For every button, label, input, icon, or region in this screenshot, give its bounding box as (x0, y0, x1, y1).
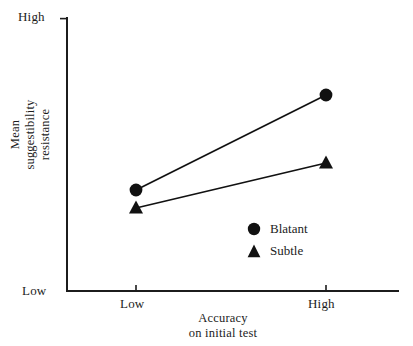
y-axis-low-label: Low (22, 283, 46, 299)
x-axis-title: Accuracy on initial test (163, 311, 283, 341)
data-point-blatant-high (320, 89, 333, 102)
series-line-subtle (136, 163, 326, 208)
legend-label-blatant: Blatant (270, 221, 308, 237)
plot-canvas (0, 0, 413, 346)
legend-item-blatant: Blatant (245, 218, 308, 240)
y-axis-title-line-2: suggestibility (23, 80, 38, 190)
y-axis-title: Mean suggestibility resistance (8, 80, 53, 190)
chart-legend: Blatant Subtle (245, 218, 308, 262)
y-axis-title-line-3: resistance (38, 80, 53, 190)
series-line-blatant (136, 95, 326, 190)
y-axis-title-line-1: Mean (8, 80, 23, 190)
x-axis-tick-label-low: Low (120, 296, 144, 312)
legend-label-subtle: Subtle (270, 243, 303, 259)
chart-figure: High Low Low High Mean suggestibility re… (0, 0, 413, 346)
data-point-subtle-high (319, 156, 333, 169)
legend-circle-icon (245, 220, 263, 238)
data-point-blatant-low (130, 184, 143, 197)
x-axis-title-line-1: Accuracy (163, 311, 283, 326)
legend-item-subtle: Subtle (245, 240, 308, 262)
x-axis-tick-label-high: High (308, 296, 335, 312)
x-axis-title-line-2: on initial test (163, 326, 283, 341)
legend-triangle-icon (245, 242, 263, 260)
y-axis-high-label: High (18, 9, 45, 25)
